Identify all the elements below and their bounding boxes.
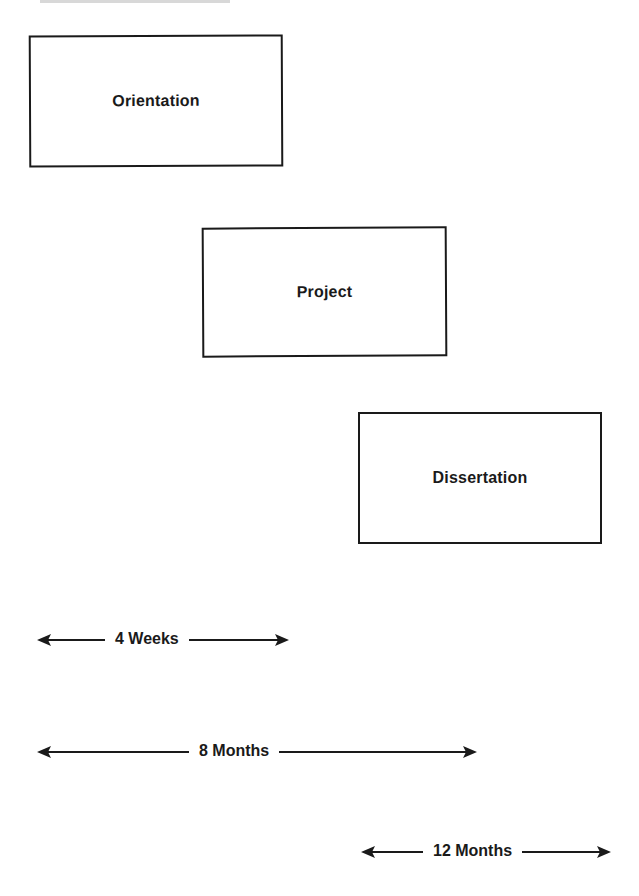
duration-label: 12 Months — [423, 842, 522, 860]
duration-arrow-12-months: 12 Months — [361, 840, 611, 864]
phase-label-orientation: Orientation — [112, 92, 200, 110]
phase-box-dissertation: Dissertation — [358, 412, 602, 544]
phase-label-project: Project — [297, 283, 353, 301]
duration-arrow-8-months: 8 Months — [37, 740, 477, 764]
phase-box-orientation: Orientation — [29, 34, 284, 167]
duration-arrow-4-weeks: 4 Weeks — [37, 628, 289, 652]
duration-label: 4 Weeks — [105, 630, 189, 648]
phase-label-dissertation: Dissertation — [433, 469, 528, 487]
duration-label: 8 Months — [189, 742, 279, 760]
cropped-heading-fragment — [40, 0, 230, 3]
phase-box-project: Project — [202, 226, 448, 357]
